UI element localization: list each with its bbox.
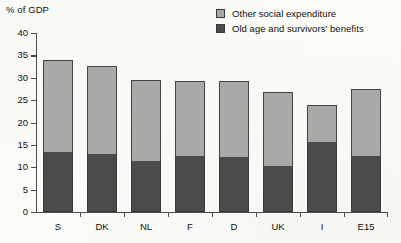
y-axis-tick: 40	[31, 33, 36, 34]
bar-group	[43, 60, 72, 212]
y-axis-title: % of GDP	[6, 4, 49, 15]
bar-segment-old-age-and-survivors-benefits	[263, 166, 292, 212]
x-axis-tick	[124, 212, 125, 217]
x-axis-tick-label: F	[187, 221, 193, 232]
x-axis-tick-label: UK	[271, 221, 284, 232]
x-axis-tick-label: E15	[358, 221, 375, 232]
dark-gray-square-icon	[216, 24, 225, 33]
bar-group	[131, 80, 160, 212]
light-gray-square-icon	[216, 9, 225, 18]
x-axis-tick	[344, 212, 345, 217]
y-axis-tick: 15	[31, 145, 36, 146]
x-axis-tick-label: DK	[95, 221, 108, 232]
bar-segment-old-age-and-survivors-benefits	[43, 152, 72, 212]
y-axis-tick: 0	[31, 212, 36, 213]
y-axis-tick: 10	[31, 167, 36, 168]
y-axis-tick: 25	[31, 100, 36, 101]
chart-legend: Other social expenditure Old age and sur…	[216, 8, 364, 34]
x-axis-tick-label: I	[321, 221, 324, 232]
bar-segment-old-age-and-survivors-benefits	[87, 154, 116, 212]
x-axis-tick-label: D	[231, 221, 238, 232]
bar-chart: % of GDP Other social expenditure Old ag…	[0, 0, 401, 243]
y-axis-tick-label: 10	[17, 161, 28, 172]
y-axis-tick-label: 0	[23, 206, 28, 217]
bar-group	[307, 105, 336, 212]
y-axis-tick-label: 20	[17, 117, 28, 128]
bar-segment-old-age-and-survivors-benefits	[351, 156, 380, 212]
x-axis-tick-label: NL	[140, 221, 152, 232]
y-axis-tick-label: 15	[17, 139, 28, 150]
x-axis-tick	[300, 212, 301, 217]
bar-group	[219, 81, 248, 212]
x-axis-tick-label: S	[55, 221, 61, 232]
y-axis-line	[36, 33, 37, 212]
y-axis-tick: 20	[31, 123, 36, 124]
x-axis-tick	[212, 212, 213, 217]
bar-segment-old-age-and-survivors-benefits	[219, 157, 248, 212]
y-axis-tick: 5	[31, 190, 36, 191]
bar-group	[87, 66, 116, 212]
legend-item-other-social-expenditure: Other social expenditure	[216, 8, 364, 19]
bar-group	[351, 89, 380, 212]
x-axis-tick	[80, 212, 81, 217]
y-axis-tick-label: 5	[23, 184, 28, 195]
plot-area: 0510152025303540 SDKNLFDUKIE15	[36, 33, 388, 212]
bar-segment-old-age-and-survivors-benefits	[175, 156, 204, 212]
y-axis-tick-label: 40	[17, 27, 28, 38]
y-axis-tick-label: 35	[17, 49, 28, 60]
y-axis-tick: 30	[31, 78, 36, 79]
bar-group	[263, 92, 292, 212]
bar-group	[175, 81, 204, 212]
legend-item-label: Other social expenditure	[232, 8, 336, 19]
bar-segment-old-age-and-survivors-benefits	[307, 142, 336, 212]
y-axis-tick-label: 30	[17, 72, 28, 83]
x-axis-tick	[387, 212, 388, 217]
y-axis-tick-label: 25	[17, 94, 28, 105]
x-axis-tick	[256, 212, 257, 217]
y-axis-tick: 35	[31, 55, 36, 56]
bar-segment-old-age-and-survivors-benefits	[131, 161, 160, 212]
x-axis-tick	[168, 212, 169, 217]
